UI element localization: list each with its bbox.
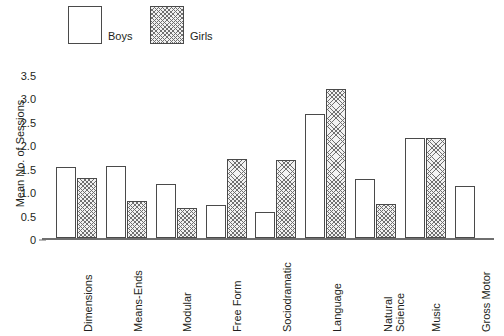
bar-girls [326, 89, 346, 238]
bar-girls [227, 159, 247, 238]
x-axis-tick-label: Music [430, 303, 442, 332]
bar-boys [405, 138, 425, 238]
bar-girls [276, 160, 296, 238]
chart-legend: Boys Girls [0, 0, 504, 58]
bar-group [446, 74, 496, 238]
bar-girls [127, 201, 147, 238]
bar-group [247, 74, 297, 238]
bar-group [98, 74, 148, 238]
x-axis-tick-label-line: Science [394, 248, 406, 332]
bar-girls [77, 178, 97, 238]
bar-boys [106, 166, 126, 238]
y-axis-tick-label: 3.5 [21, 71, 36, 82]
legend-swatch-girls [150, 6, 184, 44]
legend-swatch-boys [68, 6, 102, 44]
x-axis-tick-label: Language [331, 283, 343, 332]
bar-group [297, 74, 347, 238]
bar-boys [355, 179, 375, 238]
bar-boys [206, 205, 226, 238]
x-axis-tick-label: Modular [181, 292, 193, 332]
x-axis-tick-label: Dimensions [82, 275, 94, 332]
x-axis-tick-label: NaturalScience [382, 248, 406, 332]
bar-boys [305, 114, 325, 238]
x-axis-tick-label-line: Natural [382, 248, 394, 332]
x-axis-tick-label: Means-Ends [132, 270, 144, 332]
x-axis-tick-label: Gross Motor [480, 271, 492, 332]
bar-group [148, 74, 198, 238]
x-axis-labels: DimensionsMeans-EndsModularFree FormSoci… [48, 246, 496, 336]
bar-boys [56, 167, 76, 238]
bar-girls [376, 204, 396, 238]
x-axis-baseline [42, 238, 494, 240]
bar-group [197, 74, 247, 238]
bar-girls [426, 138, 446, 238]
bar-group [396, 74, 446, 238]
bar-boys [255, 212, 275, 238]
x-axis-tick-label: Sociodramatic [281, 262, 293, 332]
bar-group [347, 74, 397, 238]
y-axis-title: Mean No. of Sessions [15, 84, 26, 224]
x-axis-tick-label: Free Form [231, 281, 243, 332]
y-axis-tick-label: 0 [30, 235, 36, 246]
bar-container [48, 74, 496, 238]
legend-label-boys: Boys [108, 30, 132, 42]
plot-area [48, 74, 496, 240]
legend-label-girls: Girls [190, 30, 213, 42]
bar-group [48, 74, 98, 238]
bar-boys [455, 186, 475, 238]
bar-girls [177, 208, 197, 238]
bar-boys [156, 184, 176, 238]
bar-chart: Boys Girls 00.51.01.52.02.53.03.5 Mean N… [0, 0, 504, 336]
